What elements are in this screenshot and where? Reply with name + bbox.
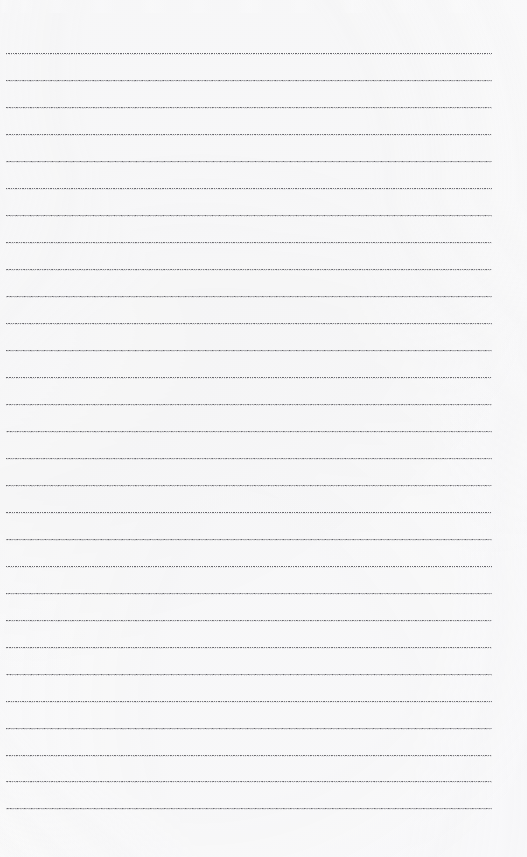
ruled-line <box>6 647 492 649</box>
ruled-line <box>6 404 492 406</box>
ruled-line <box>6 512 492 514</box>
ruled-line-halo <box>6 297 492 298</box>
ruled-line-halo <box>6 567 492 568</box>
ruled-line <box>6 593 492 595</box>
ruled-line <box>6 377 492 379</box>
ruled-line-halo <box>6 243 492 244</box>
ruled-line-halo <box>6 486 492 487</box>
ruled-line-halo <box>6 135 492 136</box>
ruled-line <box>6 539 492 541</box>
ruled-line <box>6 215 492 217</box>
ruled-line-halo <box>6 702 492 703</box>
ruled-line-halo <box>6 324 492 325</box>
ruled-line-halo <box>6 54 492 55</box>
ruled-line-halo <box>6 729 492 730</box>
ruled-line <box>6 755 492 757</box>
ruled-line <box>6 431 492 433</box>
ruled-line <box>6 269 492 271</box>
ruled-line <box>6 134 492 136</box>
ruled-line-halo <box>6 405 492 406</box>
ruled-line-halo <box>6 108 492 109</box>
ruled-line <box>6 458 492 460</box>
ruled-lines-group <box>0 0 527 857</box>
ruled-line <box>6 53 492 55</box>
ruled-line <box>6 323 492 325</box>
ruled-line-halo <box>6 513 492 514</box>
ruled-line <box>6 161 492 163</box>
ruled-line <box>6 242 492 244</box>
ruled-line <box>6 781 492 783</box>
ruled-line-halo <box>6 81 492 82</box>
ruled-line-halo <box>6 162 492 163</box>
ruled-line-halo <box>6 782 492 783</box>
ruled-line <box>6 188 492 190</box>
ruled-line-halo <box>6 648 492 649</box>
ruled-line <box>6 620 492 622</box>
ruled-line <box>6 728 492 730</box>
ruled-line <box>6 808 492 810</box>
ruled-line-halo <box>6 809 492 810</box>
ruled-line-halo <box>6 459 492 460</box>
ruled-line <box>6 566 492 568</box>
ruled-line-halo <box>6 540 492 541</box>
ruled-line-halo <box>6 675 492 676</box>
ruled-line-halo <box>6 432 492 433</box>
ruled-line-halo <box>6 621 492 622</box>
ruled-line <box>6 674 492 676</box>
ruled-line <box>6 485 492 487</box>
ruled-line <box>6 701 492 703</box>
ruled-line-halo <box>6 351 492 352</box>
ruled-line <box>6 296 492 298</box>
ruled-line-halo <box>6 216 492 217</box>
ruled-line-halo <box>6 378 492 379</box>
ruled-line <box>6 350 492 352</box>
ruled-line-halo <box>6 270 492 271</box>
ruled-line-halo <box>6 756 492 757</box>
ruled-line-halo <box>6 189 492 190</box>
ruled-line <box>6 107 492 109</box>
ruled-line-halo <box>6 594 492 595</box>
scanned-page <box>0 0 527 857</box>
ruled-line <box>6 80 492 82</box>
